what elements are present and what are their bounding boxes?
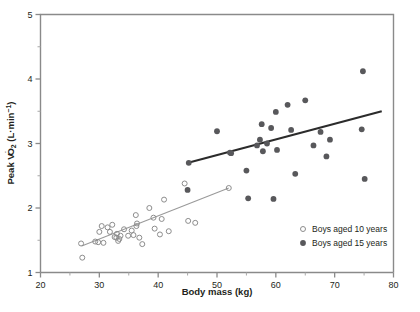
x-tick-label: 30	[94, 280, 104, 290]
data-point-15yr	[259, 121, 265, 127]
data-point-15yr	[285, 102, 291, 108]
x-tick-label: 20	[35, 280, 45, 290]
x-tick-label: 80	[388, 280, 398, 290]
data-point-15yr	[228, 150, 234, 156]
data-point-10yr	[193, 220, 198, 225]
data-point-10yr	[162, 197, 167, 202]
data-point-15yr	[260, 148, 266, 154]
data-point-10yr	[157, 232, 162, 237]
y-tick-label: 3	[27, 139, 32, 149]
data-point-15yr	[185, 187, 191, 193]
data-point-10yr	[140, 242, 145, 247]
data-point-10yr	[99, 224, 104, 229]
data-point-10yr	[107, 229, 112, 234]
chart-canvas: 2030405060708012345 Body mass (kg) Peak …	[0, 0, 420, 312]
data-point-15yr	[359, 126, 365, 132]
data-point-10yr	[137, 235, 142, 240]
x-axis-title-text: Body mass (kg)	[182, 286, 253, 297]
regression-line-10yr	[82, 188, 229, 246]
x-tick-label: 70	[330, 280, 340, 290]
data-point-10yr	[97, 229, 102, 234]
data-point-15yr	[257, 137, 263, 143]
legend-marker-open-circle	[301, 227, 306, 232]
data-point-10yr	[159, 216, 164, 221]
data-point-10yr	[131, 233, 136, 238]
data-point-10yr	[133, 213, 138, 218]
data-point-15yr	[268, 125, 274, 131]
data-point-15yr	[273, 109, 279, 115]
y-tick-label: 1	[27, 268, 32, 278]
x-tick-label: 60	[271, 280, 281, 290]
data-point-10yr	[147, 206, 152, 211]
data-point-10yr	[226, 186, 231, 191]
data-point-10yr	[110, 222, 115, 227]
data-point-10yr	[152, 226, 157, 231]
data-point-15yr	[264, 141, 270, 147]
data-point-10yr	[166, 229, 171, 234]
y-title-units: (L·min	[5, 112, 16, 144]
y-tick-label: 4	[27, 74, 32, 84]
y-tick-label: 5	[27, 10, 32, 20]
data-point-15yr	[186, 160, 192, 166]
legend-label: Boys aged 15 years	[312, 238, 387, 248]
regression-line-15yr	[188, 111, 382, 163]
data-point-10yr	[126, 233, 131, 238]
y-title-o: O	[5, 148, 16, 155]
scatter-plot-figure: 2030405060708012345 Body mass (kg) Peak …	[0, 0, 420, 312]
y-axis-title-text: Peak V˙O2 (L·min−1)	[5, 101, 17, 184]
legend: Boys aged 10 yearsBoys aged 15 years	[300, 224, 387, 248]
x-tick-label: 40	[153, 280, 163, 290]
legend-marker-filled-circle	[300, 240, 306, 246]
data-point-15yr	[327, 137, 333, 143]
data-point-10yr	[101, 240, 106, 245]
data-point-15yr	[254, 143, 260, 149]
data-point-15yr	[292, 171, 298, 177]
data-point-15yr	[311, 143, 317, 149]
x-axis-title: Body mass (kg)	[182, 286, 253, 297]
y-tick-label: 2	[27, 203, 32, 213]
y-axis-title: Peak V˙O2 (L·min−1)	[5, 101, 17, 184]
data-point-15yr	[214, 128, 220, 134]
data-point-15yr	[244, 168, 250, 174]
data-point-15yr	[245, 195, 251, 201]
data-point-15yr	[362, 176, 368, 182]
data-point-10yr	[186, 218, 191, 223]
data-point-15yr	[274, 147, 280, 153]
data-point-15yr	[324, 154, 330, 160]
y-title-superscript: −1	[5, 105, 12, 113]
y-title-prefix: Peak V	[5, 153, 16, 185]
data-point-10yr	[96, 240, 101, 245]
data-point-15yr	[318, 129, 324, 135]
data-point-10yr	[80, 255, 85, 260]
data-point-10yr	[182, 181, 187, 186]
data-point-15yr	[271, 196, 277, 202]
data-point-15yr	[302, 97, 308, 103]
data-point-10yr	[79, 241, 84, 246]
legend-label: Boys aged 10 years	[312, 224, 387, 234]
data-point-15yr	[360, 68, 366, 74]
data-point-15yr	[288, 127, 294, 133]
y-title-close: )	[5, 101, 16, 104]
